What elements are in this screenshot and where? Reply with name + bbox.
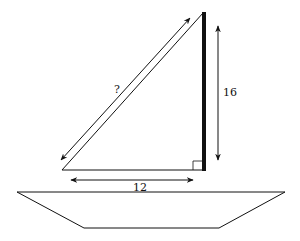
height-label: 16 xyxy=(223,86,237,99)
sailboat-diagram: ? 16 12 xyxy=(0,0,300,241)
right-angle-marker xyxy=(193,161,202,170)
hypotenuse-label: ? xyxy=(114,83,120,96)
sail-hypotenuse xyxy=(62,13,203,170)
boat-hull xyxy=(17,192,285,228)
hypotenuse-dimension-arrow xyxy=(61,18,190,160)
mast xyxy=(202,12,206,171)
